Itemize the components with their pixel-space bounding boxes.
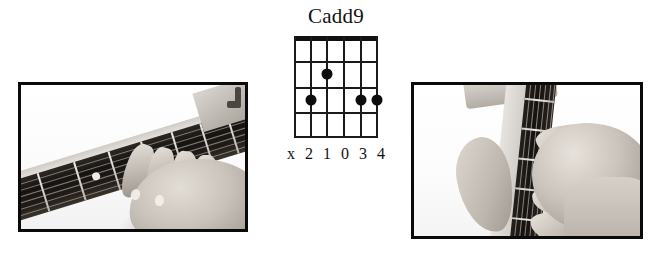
tuning-peg [227,101,241,108]
guitar-photo-left [18,82,248,232]
fret-line-2 [294,87,378,89]
guitar-photo-right [411,82,643,239]
nut-bar [294,36,378,41]
page-root: Cadd9 x 2 1 0 3 4 [0,0,658,260]
chord-grid [294,36,378,138]
fret-line-4 [294,136,378,138]
fingering-labels: x 2 1 0 3 4 [268,145,404,163]
palm-right [564,177,640,236]
fret-line-3 [294,112,378,114]
chord-dot-string2-fret3 [356,95,367,106]
chord-dot-string5-fret3 [306,95,317,106]
chord-dot-string1-fret3 [372,95,383,106]
photo-left-image [21,85,245,229]
fret-line-1 [294,61,378,63]
chord-diagram: Cadd9 x 2 1 0 3 4 [268,4,404,163]
photo-right-image [414,85,640,236]
chord-name-title: Cadd9 [268,4,404,28]
chord-dot-string3-fret2 [322,69,333,80]
